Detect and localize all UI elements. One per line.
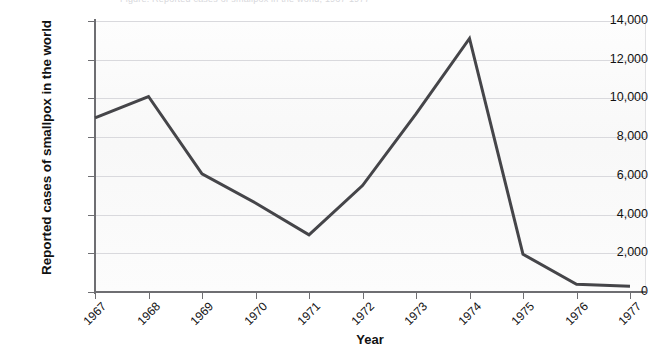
x-tick-mark-1973 [416,292,417,299]
y-tick-mark-8000 [88,137,95,138]
y-tick-label-6000: 6,000 [574,169,660,182]
gridline-14000 [95,21,645,22]
x-tick-mark-1972 [363,292,364,299]
x-axis-title: Year [95,332,645,347]
x-tick-mark-1968 [149,292,150,299]
y-tick-label-2000: 2,000 [574,246,660,259]
top-caption-sliver: Figure. Reported cases of smallpox in th… [120,0,640,4]
x-tick-mark-1974 [470,292,471,299]
y-tick-label-8000: 8,000 [574,130,660,143]
gridline-6000 [95,176,645,177]
y-tick-mark-4000 [88,215,95,216]
x-tick-mark-1969 [202,292,203,299]
y-tick-mark-12000 [88,60,95,61]
y-tick-label-14000: 14,000 [574,14,660,27]
y-tick-label-0: 0 [574,285,660,298]
plot-background [95,21,645,292]
gridline-12000 [95,60,645,61]
x-tick-mark-1976 [577,292,578,299]
y-tick-label-12000: 12,000 [574,53,660,66]
gridline-2000 [95,253,645,254]
x-tick-mark-1971 [309,292,310,299]
y-tick-mark-14000 [88,21,95,22]
y-tick-label-10000: 10,000 [574,91,660,104]
plot-area [95,21,646,292]
gridline-8000 [95,137,645,138]
y-tick-mark-2000 [88,253,95,254]
x-axis-line [94,291,646,293]
x-tick-mark-1977 [630,292,631,299]
y-tick-mark-10000 [88,98,95,99]
gridline-4000 [95,215,645,216]
y-tick-label-4000: 4,000 [574,208,660,221]
smallpox-line-chart-figure: Figure. Reported cases of smallpox in th… [0,0,660,349]
y-tick-mark-6000 [88,176,95,177]
gridline-10000 [95,98,645,99]
y-tick-mark-0 [88,292,95,293]
x-tick-mark-1967 [95,292,96,299]
x-tick-mark-1970 [256,292,257,299]
x-tick-mark-1975 [523,292,524,299]
y-axis-title: Reported cases of smallpox in the world [39,8,54,288]
